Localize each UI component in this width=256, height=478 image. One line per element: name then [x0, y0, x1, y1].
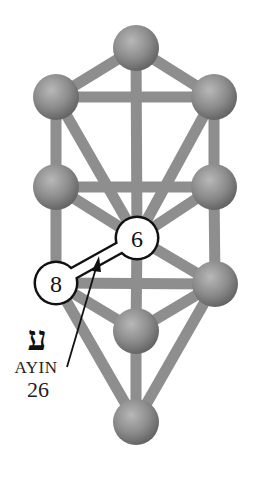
path-hod-netzach: [56, 283, 215, 284]
sphere-label-8: 8: [50, 271, 62, 297]
sphere-malkuth: [113, 399, 159, 445]
sphere-binah: [33, 74, 79, 120]
sphere-chesed: [191, 164, 237, 210]
letter-name: AYIN: [8, 358, 64, 378]
sphere-chokmah: [191, 74, 237, 120]
sphere-netzach: [192, 261, 238, 307]
sphere-geburah: [33, 164, 79, 210]
sphere-kether: [113, 25, 159, 71]
path-kether-tiphareth: [136, 48, 137, 238]
tree-of-life-diagram: 6 8: [0, 0, 256, 478]
path-number: 26: [8, 377, 68, 403]
sphere-yesod: [113, 308, 159, 354]
sphere-label-6: 6: [131, 226, 143, 252]
hebrew-letter: ע: [20, 318, 54, 358]
